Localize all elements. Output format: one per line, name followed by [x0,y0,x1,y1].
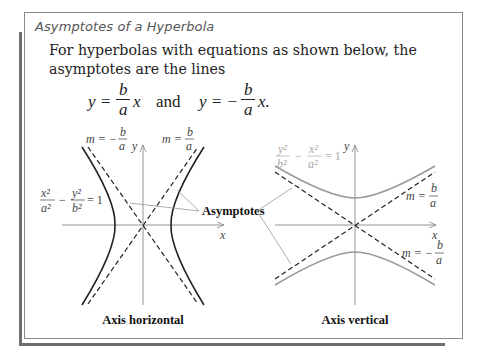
eq-left-n2: y² [71,186,81,200]
slope-pos-den: a [430,196,436,210]
slope-pos-num: b [187,125,193,139]
slope-neg-m: m = − [402,246,433,260]
slope-neg-den: a [436,253,442,267]
x-axis-label: x [219,228,226,242]
eq-left-d2: b² [72,201,82,215]
y-axis-label: y [131,139,138,153]
y-axis-label: y [343,139,350,153]
eq-right-op: − [295,149,302,163]
leader-line [177,190,199,211]
slope-pos-m: m = [406,189,426,203]
eq-left-d1: a² [41,201,51,215]
slope-neg-m: m = − [86,132,117,146]
eq-left-n1: x² [40,186,50,200]
hyperbola-right-branch [171,147,204,305]
slope-pos-den: a [186,139,192,153]
leader-line [257,188,292,211]
eq-left-op: − [59,193,66,207]
eq-right-n2: x² [308,142,318,156]
eq-right-d1: b² [277,157,287,171]
left-figure: m = − b a m = b a y x x² a² − y² b² = 1 … [40,125,226,327]
slope-pos-m: m = [162,132,182,146]
eq-right-rhs: = 1 [325,149,341,163]
slope-neg-num: b [437,238,443,252]
eq-right-d2: a² [308,157,318,171]
asymptotes-label: Asymptotes [202,204,265,218]
caption-axis-vertical: Axis vertical [322,313,390,327]
asymptotes-callout: Asymptotes [130,188,292,264]
caption-axis-horizontal: Axis horizontal [102,313,184,327]
right-figure: y² b² − x² a² = 1 y x m = b a m = − b a … [275,139,444,327]
slope-pos-num: b [431,181,437,195]
eq-left-rhs: = 1 [87,193,103,207]
slope-neg-num: b [120,125,126,139]
eq-right-n1: y² [277,142,287,156]
leader-line [257,211,291,264]
hyperbola-left-branch [82,147,115,305]
slope-neg-den: a [119,139,125,153]
hyperbola-figures: m = − b a m = b a y x x² a² − y² b² = 1 … [0,0,484,356]
leader-line [130,203,199,211]
